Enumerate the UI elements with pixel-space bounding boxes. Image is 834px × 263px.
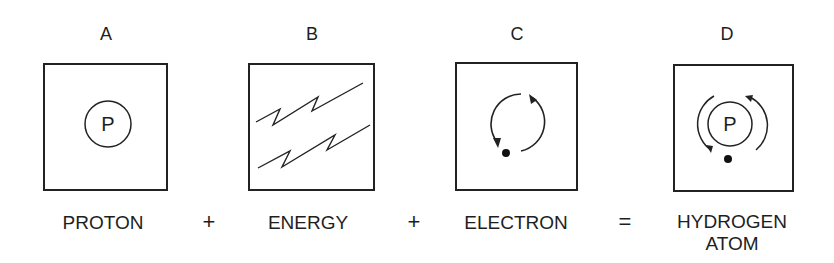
- energy-lightning-icon: [250, 65, 377, 193]
- caption-proton: PROTON: [53, 212, 153, 233]
- panel-letter-c: C: [497, 24, 537, 44]
- panel-hydrogen-atom: P: [673, 64, 794, 192]
- proton-label: P: [101, 113, 114, 135]
- equals-operator: =: [610, 211, 640, 233]
- plus-operator-2: +: [399, 211, 429, 233]
- panel-electron: [455, 62, 578, 191]
- proton-label: P: [723, 113, 736, 135]
- panel-letter-d: D: [707, 24, 747, 44]
- hydrogen-atom-icon: P: [675, 66, 796, 194]
- caption-electron: ELECTRON: [451, 212, 581, 233]
- panel-letter-a: A: [86, 24, 126, 44]
- panel-proton: P: [43, 63, 168, 191]
- caption-atom: ATOM: [664, 233, 800, 254]
- caption-energy: ENERGY: [257, 212, 359, 233]
- panel-letter-b: B: [292, 24, 332, 44]
- proton-icon: P: [45, 65, 170, 193]
- panel-energy: [248, 63, 375, 191]
- electron-orbit-icon: [457, 64, 580, 193]
- plus-operator-1: +: [194, 211, 224, 233]
- caption-hydrogen: HYDROGEN: [664, 211, 800, 232]
